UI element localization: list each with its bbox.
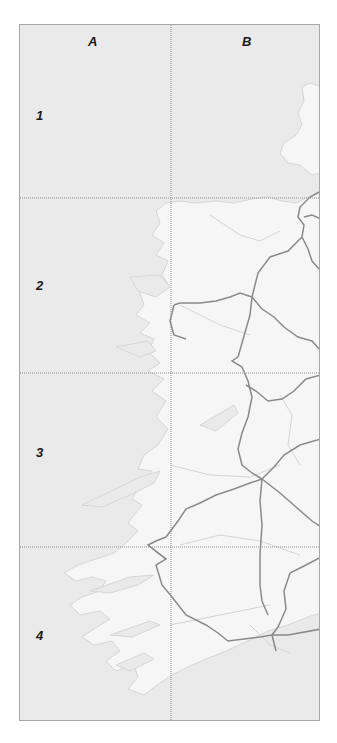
map-frame[interactable]: A B 1 2 3 4 (19, 24, 320, 721)
column-label-b: B (242, 34, 251, 49)
land (64, 83, 320, 695)
row-label-3: 3 (36, 445, 43, 460)
map-canvas (20, 25, 320, 721)
row-label-1: 1 (36, 108, 43, 123)
row-label-4: 4 (36, 628, 43, 643)
column-label-a: A (88, 34, 97, 49)
row-label-2: 2 (36, 278, 43, 293)
